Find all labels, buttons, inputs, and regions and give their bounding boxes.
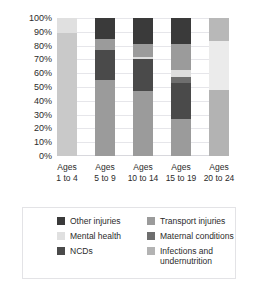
bar-stack xyxy=(209,18,229,156)
bar-segment[interactable] xyxy=(57,33,77,156)
bar-column[interactable] xyxy=(133,18,153,156)
bar-segment[interactable] xyxy=(209,18,229,41)
x-axis-tick-line2: 1 to 4 xyxy=(50,173,84,184)
legend-label: Other injuries xyxy=(70,216,121,226)
legend-label: Maternal conditions xyxy=(160,231,234,241)
bar-stack xyxy=(57,18,77,156)
y-axis-tick-label: 0% xyxy=(39,152,52,161)
x-axis-tick-line2: 15 to 19 xyxy=(164,173,198,184)
bar-segment[interactable] xyxy=(133,18,153,44)
x-axis-tick-line1: Ages xyxy=(95,162,114,172)
x-axis-tick-line2: 10 to 14 xyxy=(126,173,160,184)
bar-segment[interactable] xyxy=(171,83,191,119)
x-axis: Ages1 to 4Ages5 to 9Ages10 to 14Ages15 t… xyxy=(57,162,229,188)
legend-item[interactable]: Mental health xyxy=(57,231,139,241)
bar-segment[interactable] xyxy=(171,18,191,44)
y-axis-tick-label: 10% xyxy=(34,138,52,147)
y-axis-tick-label: 80% xyxy=(34,41,52,50)
bar-segment[interactable] xyxy=(95,18,115,39)
x-axis-tick-line2: 5 to 9 xyxy=(88,173,122,184)
x-axis-tick-label: Ages20 to 24 xyxy=(202,162,236,188)
bar-segment[interactable] xyxy=(209,90,229,156)
y-axis-tick-label: 50% xyxy=(34,83,52,92)
legend-swatch-icon xyxy=(57,217,65,225)
legend-item[interactable]: Other injuries xyxy=(57,216,139,226)
x-axis-tick-label: Ages1 to 4 xyxy=(50,162,84,188)
x-axis-tick-line1: Ages xyxy=(209,162,228,172)
legend-label: Mental health xyxy=(70,231,121,241)
chart-legend: Other injuriesTransport injuriesMental h… xyxy=(22,207,236,279)
y-axis-tick-label: 30% xyxy=(34,110,52,119)
legend-swatch-icon xyxy=(147,247,155,255)
y-axis-tick-label: 60% xyxy=(34,69,52,78)
legend-item[interactable]: Maternal conditions xyxy=(147,231,247,241)
x-axis-tick-label: Ages15 to 19 xyxy=(164,162,198,188)
bar-segment[interactable] xyxy=(171,119,191,156)
bar-segment[interactable] xyxy=(95,50,115,80)
stacked-bar-chart-figure: 0%10%20%30%40%50%60%70%80%90%100% Ages1 … xyxy=(0,0,255,293)
bar-segment[interactable] xyxy=(171,70,191,77)
x-axis-tick-line1: Ages xyxy=(133,162,152,172)
bar-segment[interactable] xyxy=(133,91,153,156)
x-axis-tick-line2: 20 to 24 xyxy=(202,173,236,184)
bar-column[interactable] xyxy=(57,18,77,156)
x-axis-tick-label: Ages5 to 9 xyxy=(88,162,122,188)
bar-column[interactable] xyxy=(95,18,115,156)
y-axis-tick-label: 100% xyxy=(29,14,52,23)
legend-swatch-icon xyxy=(147,217,155,225)
bar-segment[interactable] xyxy=(57,18,77,33)
legend-swatch-icon xyxy=(57,232,65,240)
bar-segment[interactable] xyxy=(95,39,115,50)
y-axis-tick-label: 90% xyxy=(34,27,52,36)
legend-label: Infections and undernutrition xyxy=(160,246,247,266)
bar-stack xyxy=(171,18,191,156)
legend-item[interactable]: NCDs xyxy=(57,246,139,266)
legend-label: NCDs xyxy=(70,246,93,256)
legend-swatch-icon xyxy=(147,232,155,240)
legend-grid: Other injuriesTransport injuriesMental h… xyxy=(57,216,235,266)
bars-container xyxy=(57,18,229,156)
bar-column[interactable] xyxy=(171,18,191,156)
legend-item[interactable]: Infections and undernutrition xyxy=(147,246,247,266)
y-axis: 0%10%20%30%40%50%60%70%80%90%100% xyxy=(0,18,52,156)
bar-segment[interactable] xyxy=(209,41,229,89)
bar-stack xyxy=(133,18,153,156)
bar-column[interactable] xyxy=(209,18,229,156)
y-axis-tick-label: 20% xyxy=(34,124,52,133)
bar-stack xyxy=(95,18,115,156)
legend-item[interactable]: Transport injuries xyxy=(147,216,247,226)
bar-segment[interactable] xyxy=(171,44,191,70)
legend-swatch-icon xyxy=(57,247,65,255)
bar-segment[interactable] xyxy=(95,80,115,156)
legend-label: Transport injuries xyxy=(160,216,225,226)
y-axis-tick-label: 40% xyxy=(34,96,52,105)
x-axis-tick-line1: Ages xyxy=(57,162,76,172)
y-axis-tick-label: 70% xyxy=(34,55,52,64)
x-axis-tick-line1: Ages xyxy=(171,162,190,172)
plot-area xyxy=(57,18,229,156)
x-axis-tick-label: Ages10 to 14 xyxy=(126,162,160,188)
bar-segment[interactable] xyxy=(133,44,153,56)
bar-segment[interactable] xyxy=(133,59,153,91)
